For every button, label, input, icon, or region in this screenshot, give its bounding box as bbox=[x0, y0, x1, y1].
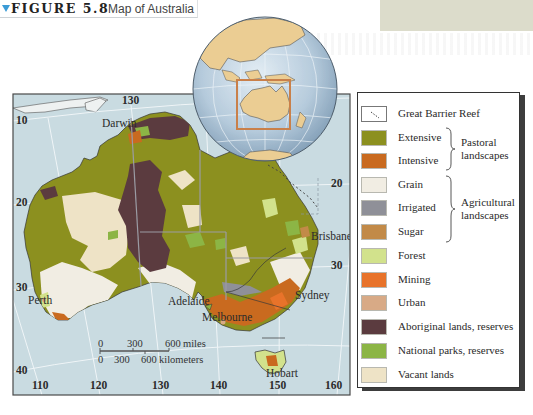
legend-item-sugar: Sugar bbox=[361, 224, 521, 240]
group-label-pastoral: Pastoral landscapes bbox=[461, 136, 509, 162]
lat-10-label: 10 bbox=[16, 114, 28, 126]
legend-label: Intensive bbox=[398, 154, 438, 166]
lat-30-right-label: 30 bbox=[331, 259, 343, 271]
legend-label: Aboriginal lands, reserves bbox=[398, 320, 513, 332]
scale-km-end: 600 bbox=[141, 354, 157, 365]
agricultural-line1: Agricultural bbox=[461, 196, 515, 209]
swatch-sugar bbox=[361, 224, 387, 240]
swatch-intensive bbox=[361, 153, 387, 169]
legend-label: Urban bbox=[398, 296, 426, 308]
legend-item-national-parks: National parks, reserves bbox=[361, 343, 521, 359]
city-darwin: Darwin bbox=[102, 117, 137, 129]
lon-150-label: 150 bbox=[269, 379, 287, 391]
swatch-urban bbox=[361, 295, 387, 311]
pastoral-line1: Pastoral bbox=[461, 136, 509, 149]
scale-miles-mid: 300 bbox=[127, 338, 143, 349]
city-adelaide: Adelaide bbox=[168, 295, 210, 307]
legend-label: Grain bbox=[398, 178, 423, 190]
city-hobart: Hobart bbox=[266, 367, 299, 379]
swatch-extensive bbox=[361, 130, 387, 146]
swatch-grain bbox=[361, 177, 387, 193]
scale-miles-end: 600 bbox=[165, 338, 181, 349]
lon-130-top-label: 130 bbox=[122, 94, 140, 106]
city-sydney: Sydney bbox=[295, 289, 330, 302]
pastoral-line2: landscapes bbox=[461, 149, 509, 162]
lat-20-right-label: 20 bbox=[331, 177, 343, 189]
lon-110-label: 110 bbox=[32, 379, 49, 391]
city-perth: Perth bbox=[28, 294, 53, 306]
legend-item-vacant-lands: Vacant lands bbox=[361, 367, 521, 383]
group-label-agricultural: Agricultural landscapes bbox=[461, 196, 515, 222]
swatch-forest bbox=[361, 248, 387, 264]
legend-item-aboriginal-lands: Aboriginal lands, reserves bbox=[361, 319, 521, 335]
scale-miles-unit: miles bbox=[183, 338, 206, 349]
agricultural-brace-icon bbox=[446, 176, 455, 242]
lat-40-label: 40 bbox=[16, 364, 28, 376]
tasmania-intensive bbox=[266, 355, 278, 366]
legend-item-grain: Grain bbox=[361, 177, 521, 193]
scale-km-unit: kilometers bbox=[159, 354, 203, 365]
lon-160-label: 160 bbox=[325, 379, 343, 391]
swatch-national-parks bbox=[361, 343, 387, 359]
brace-icons bbox=[444, 126, 458, 276]
agricultural-line2: landscapes bbox=[461, 209, 515, 222]
inset-globe bbox=[193, 17, 337, 161]
legend-label: Extensive bbox=[398, 131, 441, 143]
lat-20-left-label: 20 bbox=[16, 196, 28, 208]
scale-miles-zero: 0 bbox=[98, 338, 103, 349]
scale-km-zero: 0 bbox=[98, 354, 103, 365]
scale-km-mid: 300 bbox=[114, 354, 130, 365]
legend-label: Sugar bbox=[398, 225, 424, 237]
legend-item-forest: Forest bbox=[361, 248, 521, 264]
lat-30-left-label: 30 bbox=[16, 281, 28, 293]
legend: Great Barrier Reef Extensive Intensive G… bbox=[357, 92, 520, 388]
lon-130-label: 130 bbox=[152, 379, 170, 391]
lon-120-label: 120 bbox=[90, 379, 108, 391]
legend-label: National parks, reserves bbox=[398, 344, 504, 356]
legend-label: Great Barrier Reef bbox=[398, 107, 480, 119]
swatch-vacant-lands bbox=[361, 367, 387, 383]
lon-140-label: 140 bbox=[210, 379, 228, 391]
dashed-reef-icon bbox=[361, 106, 387, 122]
legend-item-urban: Urban bbox=[361, 295, 521, 311]
legend-label: Mining bbox=[398, 273, 430, 285]
legend-item-mining: Mining bbox=[361, 272, 521, 288]
legend-label: Vacant lands bbox=[398, 368, 454, 380]
city-brisbane: Brisbane bbox=[311, 230, 352, 242]
legend-item-great-barrier-reef: Great Barrier Reef bbox=[361, 106, 521, 122]
swatch-mining bbox=[361, 272, 387, 288]
city-melbourne: Melbourne bbox=[202, 311, 252, 323]
swatch-irrigated bbox=[361, 200, 387, 216]
pastoral-brace-icon bbox=[446, 128, 455, 170]
swatch-aboriginal-lands bbox=[361, 319, 387, 335]
legend-label: Irrigated bbox=[398, 201, 436, 213]
legend-label: Forest bbox=[398, 249, 426, 261]
